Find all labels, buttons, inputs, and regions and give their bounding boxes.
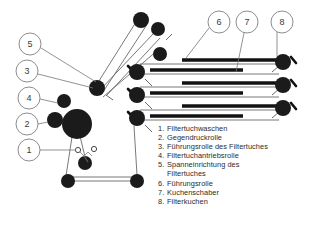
callout-8-label: 8 <box>279 17 284 27</box>
guide-roller-left <box>57 94 71 108</box>
belt-roller-l2 <box>129 87 145 103</box>
belt-roller-l3 <box>129 110 145 126</box>
callout-7[interactable]: 7 <box>236 11 258 33</box>
scraper-right-3 <box>291 103 296 109</box>
tick-1 <box>145 79 152 86</box>
legend-item-text: Gegendruckrolle <box>167 133 222 142</box>
legend-item: 5.Spanneinrichtung des <box>158 160 306 169</box>
top-roller-b <box>151 22 165 36</box>
belt-roller-r2 <box>275 77 291 93</box>
leader-2 <box>38 122 48 124</box>
legend-item-text: Kuchenschaber <box>167 188 219 197</box>
legend-item: 7.Kuchenschaber <box>158 188 306 197</box>
legend-list: 1.Filtertuchwaschen 2.Gegendruckrolle 3.… <box>158 124 306 206</box>
tick-8 <box>106 95 113 100</box>
legend-item: 8.Filterkuchen <box>158 197 306 206</box>
legend-item: 1.Filtertuchwaschen <box>158 124 306 133</box>
callout-3[interactable]: 3 <box>16 60 38 82</box>
legend-item-text: Filtertuchantriebsrolle <box>167 151 239 160</box>
callout-1[interactable]: 1 <box>18 139 40 161</box>
belt-roller-r3 <box>275 100 291 116</box>
legend-item-number: 2. <box>158 133 167 142</box>
belt-roller-l1 <box>129 64 145 80</box>
tensioner-eye-left <box>75 147 80 152</box>
callout-5[interactable]: 5 <box>19 33 41 55</box>
cloth-left-down <box>66 137 72 176</box>
belt-roller-r1 <box>275 54 291 70</box>
leader-7 <box>236 33 244 72</box>
callout-4[interactable]: 4 <box>18 87 40 109</box>
filter-cake-layer <box>150 60 277 116</box>
legend-item-number: 8. <box>158 197 167 206</box>
drive-roller-main <box>62 109 92 139</box>
tensioner-spring <box>80 152 92 156</box>
cloth-diagonal-b1 <box>100 34 153 90</box>
leader-6 <box>186 28 209 58</box>
legend-item-number: 4. <box>158 151 167 160</box>
legend-item-number: 3. <box>158 142 167 151</box>
callout-7-label: 7 <box>244 17 249 27</box>
bottom-roller-right <box>130 174 144 188</box>
legend-item-number: 1. <box>158 124 167 133</box>
cloth-right-up <box>134 126 137 175</box>
callout-2-label: 2 <box>24 119 29 129</box>
legend-item-text: Spanneinrichtung des <box>167 160 240 169</box>
legend-item: 4.Filtertuchantriebsrolle <box>158 151 306 160</box>
legend-item-number: 6. <box>158 179 167 188</box>
tick-7 <box>166 34 172 40</box>
legend-item-text: Filtertuches <box>167 169 206 178</box>
callout-3-label: 3 <box>24 66 29 76</box>
leader-4 <box>40 99 58 103</box>
cloth-left-down-2 <box>80 136 85 157</box>
legend-item-text: Filterkuchen <box>167 197 208 206</box>
bottom-roller-left <box>61 174 75 188</box>
callout-6[interactable]: 6 <box>208 11 230 33</box>
legend-item: 3.Führungsrolle des Filtertuches <box>158 142 306 151</box>
legend-item-number: 7. <box>158 188 167 197</box>
legend-item-text: Führungsrolle des Filtertuches <box>167 142 268 151</box>
top-roller-c <box>153 47 167 61</box>
legend-item: 6.Führungsrolle <box>158 179 306 188</box>
legend-item-number: 5. <box>158 160 167 169</box>
callout-1-label: 1 <box>26 145 31 155</box>
callout-4-label: 4 <box>26 93 31 103</box>
legend-item: 2.Gegendruckrolle <box>158 133 306 142</box>
callout-5-label: 5 <box>27 39 32 49</box>
tick-2 <box>145 102 152 109</box>
callout-2[interactable]: 2 <box>16 113 38 135</box>
legend-item-text: Führungsrolle <box>167 179 213 188</box>
tick-3 <box>145 125 152 132</box>
top-roller-a <box>133 12 149 28</box>
scraper-right-1 <box>291 57 296 63</box>
counter-pressure-roller <box>47 112 63 128</box>
diagram-figure: 5 3 4 2 1 6 7 <box>0 0 309 228</box>
tensioning-device <box>75 146 96 162</box>
leader-3 <box>38 74 93 88</box>
callout-6-label: 6 <box>216 17 221 27</box>
legend: 1.Filtertuchwaschen 2.Gegendruckrolle 3.… <box>158 124 306 206</box>
legend-item-text: Filtertuchwaschen <box>167 124 227 133</box>
callout-8[interactable]: 8 <box>271 11 293 33</box>
legend-item-continuation: Filtertuches <box>158 169 306 178</box>
scraper-right-2 <box>291 80 296 86</box>
tensioner-eye-right <box>91 146 96 151</box>
